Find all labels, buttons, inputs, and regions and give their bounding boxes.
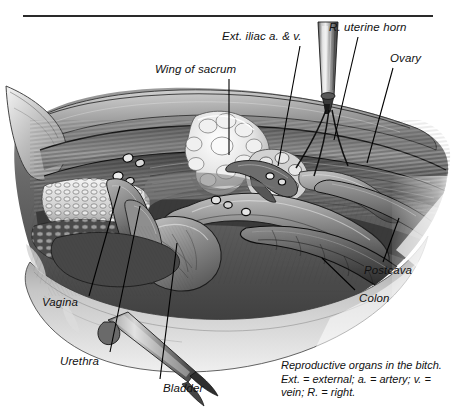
caption-line-title: Reproductive organs in the bitch.: [281, 359, 453, 373]
illustration-body: [6, 22, 455, 406]
surgical-clamp: [318, 22, 338, 114]
label-wing-of-sacrum: Wing of sacrum: [155, 63, 236, 76]
caption-line-key-2: vein; R. = right.: [281, 386, 453, 400]
label-postcava: Postcava: [364, 264, 412, 277]
caption-line-key-1: Ext. = external; a. = artery; v. =: [281, 373, 453, 387]
label-colon: Colon: [359, 292, 390, 305]
label-r-uterine-horn: R. uterine horn: [329, 21, 407, 34]
figure-caption: Reproductive organs in the bitch. Ext. =…: [281, 359, 453, 400]
label-vagina: Vagina: [42, 296, 78, 309]
label-ovary: Ovary: [390, 52, 421, 65]
label-urethra: Urethra: [60, 355, 99, 368]
anatomical-figure: Ext. iliac a. & v. R. uterine horn Wing …: [0, 0, 455, 415]
label-ext-iliac: Ext. iliac a. & v.: [222, 30, 302, 43]
label-bladder: Bladder: [163, 382, 203, 395]
